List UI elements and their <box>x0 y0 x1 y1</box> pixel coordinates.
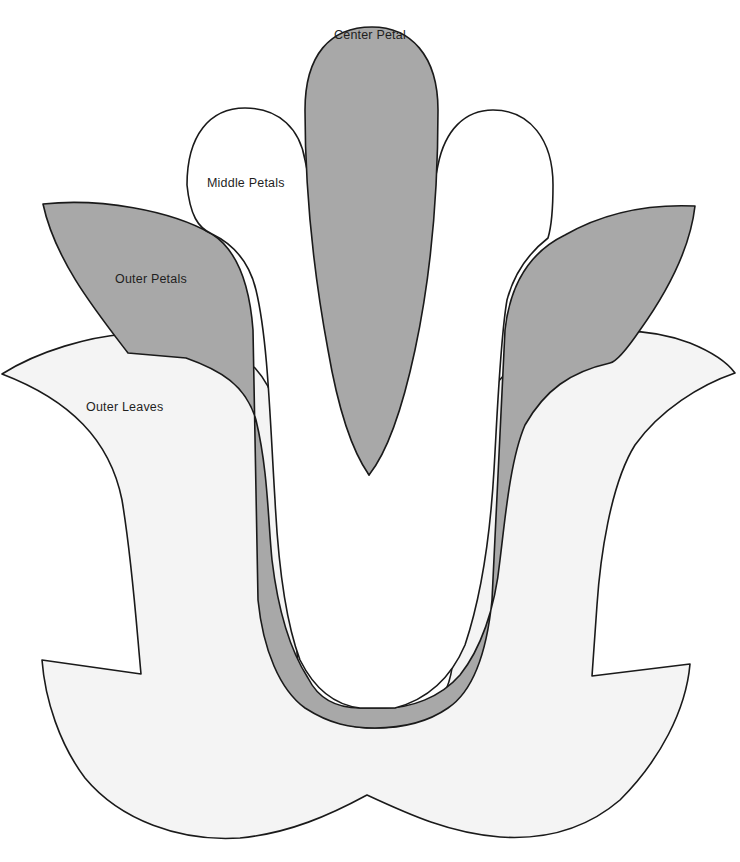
label-outer-leaves: Outer Leaves <box>86 400 163 414</box>
flower-pattern-diagram <box>0 0 740 862</box>
label-outer-petals: Outer Petals <box>115 272 187 286</box>
label-center-petal: Center Petal <box>334 28 406 42</box>
label-middle-petals: Middle Petals <box>207 176 285 190</box>
